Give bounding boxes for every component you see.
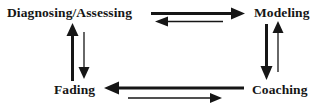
edge-left-reverse-arrow bbox=[79, 32, 90, 79]
node-label-fading: Fading bbox=[54, 83, 95, 97]
node-label-coaching: Coaching bbox=[252, 83, 308, 97]
node-label-modeling: Modeling bbox=[254, 6, 310, 20]
edge-bottom-forward-arrow bbox=[104, 82, 244, 95]
edge-left-forward-arrow bbox=[67, 23, 79, 81]
cycle-diagram: Diagnosing/Assessing Modeling Coaching F… bbox=[0, 0, 327, 109]
edge-top-reverse-arrow bbox=[155, 17, 223, 27]
node-label-diagnosing-assessing: Diagnosing/Assessing bbox=[7, 6, 132, 20]
edge-right-forward-arrow bbox=[261, 24, 273, 80]
edge-bottom-reverse-arrow bbox=[128, 93, 222, 103]
edge-right-reverse-arrow bbox=[273, 21, 284, 72]
